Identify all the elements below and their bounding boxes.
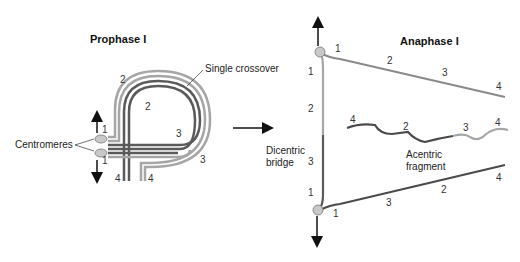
bridge-upper [321, 55, 323, 135]
acentric-label: Acentric [406, 149, 442, 160]
label-3-outer: 3 [200, 154, 206, 165]
label-4-left: 4 [115, 173, 121, 184]
inversion-crossover-diagram: Prophase I Centromeres Single crossover … [0, 0, 520, 262]
centromeres-label: Centromeres [15, 139, 73, 150]
acentric-fragment-light [453, 129, 508, 139]
top-arm-4: 4 [496, 81, 502, 92]
fragment-4: 4 [350, 114, 356, 125]
bridge-3: 3 [308, 156, 314, 167]
top-arm-2: 2 [387, 55, 393, 66]
acentric-label-2: fragment [406, 161, 446, 172]
bottom-arm-4: 4 [496, 172, 502, 183]
fragment-2: 2 [403, 121, 409, 132]
bottom-arm-3: 3 [386, 197, 392, 208]
bottom-arm-1: 1 [333, 208, 339, 219]
centromere-top-anaphase [315, 47, 325, 57]
prophase-loop [108, 71, 210, 181]
bridge-2: 2 [308, 103, 314, 114]
top-arm-1: 1 [335, 43, 341, 54]
top-arm [320, 53, 505, 97]
top-arm-3: 3 [442, 67, 448, 78]
centromere-bottom-anaphase [313, 205, 323, 215]
anaphase-panel: Anaphase I 1 2 3 4 1 2 3 1 4 2 3 4 1 3 2 [266, 22, 508, 242]
label-3-inner: 3 [176, 128, 182, 139]
bridge-1b: 1 [308, 187, 314, 198]
bridge-lower [319, 135, 323, 210]
centromere-top [95, 135, 107, 143]
label-1-bottom: 1 [102, 155, 108, 166]
prophase-panel: Prophase I Centromeres Single crossover … [15, 33, 280, 184]
bridge-1: 1 [308, 66, 314, 77]
dicentric-label: Dicentric [266, 145, 305, 156]
dicentric-label-2: bridge [266, 157, 294, 168]
fragment-3: 3 [463, 122, 469, 133]
fragment-4b: 4 [495, 117, 501, 128]
label-4-right: 4 [148, 173, 154, 184]
label-1-top: 1 [102, 124, 108, 135]
acentric-fragment-dark [347, 124, 453, 142]
prophase-title: Prophase I [90, 33, 146, 45]
anaphase-title: Anaphase I [400, 35, 459, 47]
crossover-label: Single crossover [205, 63, 280, 74]
label-2-outer: 2 [120, 74, 126, 85]
label-2-inner: 2 [145, 101, 151, 112]
bottom-arm-2: 2 [441, 184, 447, 195]
